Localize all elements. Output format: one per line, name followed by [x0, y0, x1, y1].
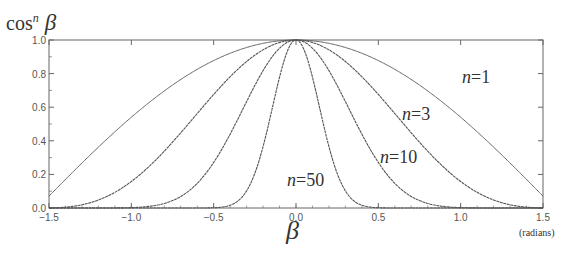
- y-tick-label: 0.2: [32, 169, 46, 180]
- y-axis-title: cosnβ: [6, 10, 57, 35]
- x-tick-label: 0.5: [371, 212, 385, 223]
- y-tick-label: 0.8: [32, 69, 46, 80]
- series-label-n10: n=10: [380, 147, 417, 167]
- y-tick-label: 1.0: [32, 35, 46, 46]
- y-tick-label: 0.0: [32, 203, 46, 214]
- x-tick-label: −0.5: [204, 212, 224, 223]
- x-tick-label: 1.0: [454, 212, 468, 223]
- x-axis-title: β: [285, 216, 299, 245]
- y-tick-label: 0.4: [32, 136, 46, 147]
- x-tick-label: 1.5: [536, 212, 550, 223]
- cos-power-chart: cosnβ −1.5−1.0−0.50.00.51.01.50.00.20.40…: [0, 0, 580, 263]
- x-tick-label: −1.0: [121, 212, 141, 223]
- series-label-n1: n=1: [462, 67, 490, 87]
- series-label-n3: n=3: [402, 104, 430, 124]
- series-label-n50: n=50: [287, 170, 324, 190]
- y-axis-title-exponent: n: [33, 11, 39, 25]
- y-tick-label: 0.6: [32, 102, 46, 113]
- y-axis-title-base: cos: [6, 12, 33, 34]
- x-axis-unit: (radians): [519, 227, 555, 239]
- y-axis-title-variable: β: [44, 10, 57, 35]
